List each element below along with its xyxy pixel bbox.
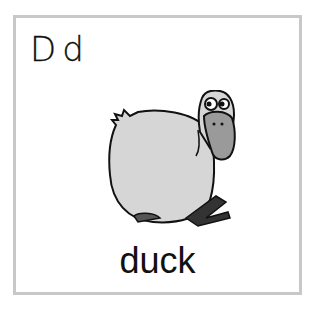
letter-heading: Dd [30,32,90,66]
word-label: duck [16,240,299,282]
alphabet-card: Dd duck [13,15,302,295]
duck-illustration [98,90,268,240]
